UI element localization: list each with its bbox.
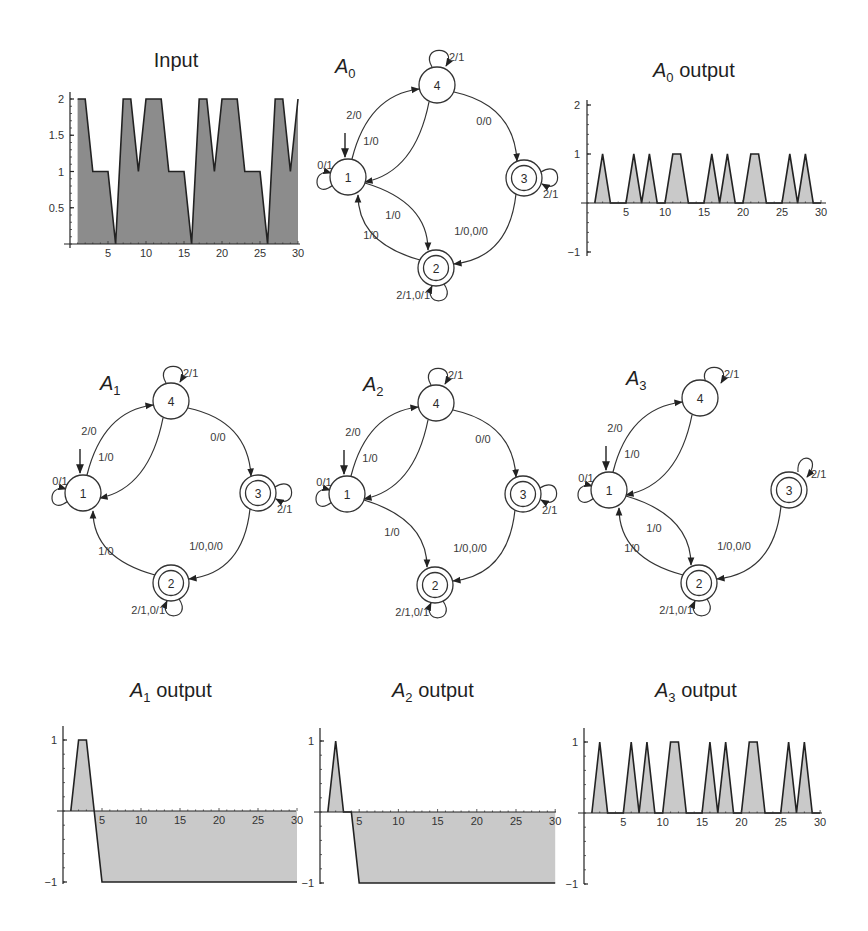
- x-tick-label: 20: [737, 206, 749, 218]
- state-label: 3: [255, 487, 262, 501]
- edge-label-1-to-2: 1/0: [646, 522, 661, 534]
- edge-label-4-to-1: 1/0: [624, 448, 639, 460]
- y-tick-label: 1: [51, 734, 57, 746]
- state-label: 1: [80, 487, 87, 501]
- state-node-4: 4: [419, 67, 455, 103]
- state-node-4: 4: [153, 383, 189, 419]
- y-tick-label: −1: [565, 878, 578, 890]
- x-tick-label: 10: [392, 815, 404, 827]
- x-tick-label: 30: [815, 206, 827, 218]
- edge-label-2-to-1: 1/0: [98, 545, 113, 557]
- x-tick-label: 30: [814, 816, 826, 828]
- x-tick-label: 25: [510, 815, 522, 827]
- a1-output-title: A1 output: [129, 679, 212, 705]
- state-label: 1: [344, 488, 351, 502]
- x-tick-label: 25: [252, 814, 264, 826]
- a3-output-title: A3 output: [654, 679, 737, 705]
- edge-label-1-self-loop: 0/1: [52, 475, 67, 487]
- a3-diagram-title: A3: [625, 367, 647, 393]
- state-label: 4: [168, 395, 175, 409]
- state-label: 1: [606, 484, 613, 498]
- figure-canvas: Input A0 output A1 output A2 output A3 o…: [0, 0, 868, 931]
- state-label: 2: [696, 577, 703, 591]
- edge-label-2-to-1: 1/0: [624, 542, 639, 554]
- edge-label-1-to-4: 2/0: [346, 109, 361, 121]
- edge-label-3-to-2: 1/0,0/0: [189, 540, 223, 552]
- y-tick-label: −1: [567, 246, 580, 258]
- state-node-4: 4: [418, 385, 454, 421]
- x-tick-label: 20: [213, 814, 225, 826]
- edge-label-4-self-loop: 2/1: [183, 367, 198, 379]
- x-tick-label: 5: [99, 814, 105, 826]
- svg-text:A1: A1: [99, 372, 121, 398]
- state-label: 3: [521, 172, 528, 186]
- edge-label-1-self-loop: 0/1: [317, 159, 332, 171]
- edge-2-self-loop: [429, 601, 446, 618]
- x-tick-label: 20: [735, 816, 747, 828]
- a3-state-diagram: 2/01/02/12/11/0,0/01/01/00/12/1,0/11234: [578, 367, 826, 616]
- edge-label-4-to-1: 1/0: [362, 452, 377, 464]
- x-tick-label: 25: [776, 206, 788, 218]
- edge-label-4-self-loop: 2/1: [449, 51, 464, 63]
- edge-1-to-4: [352, 89, 419, 159]
- x-tick-label: 5: [356, 815, 362, 827]
- svg-text:A0 output: A0 output: [652, 59, 735, 85]
- x-tick-label: 10: [657, 816, 669, 828]
- state-node-3: 3: [506, 160, 542, 196]
- state-node-2: 2: [418, 250, 454, 286]
- a0-output-title: A0 output: [652, 59, 735, 85]
- svg-text:A1 output: A1 output: [129, 679, 212, 705]
- x-tick-label: 15: [696, 816, 708, 828]
- edge-4-self-loop: [429, 50, 448, 67]
- y-tick-label: 0.5: [49, 202, 64, 214]
- edge-4-self-loop: [428, 368, 447, 385]
- svg-text:A0: A0: [334, 55, 356, 81]
- state-label: 4: [434, 79, 441, 93]
- edge-label-4-self-loop: 2/1: [448, 369, 463, 381]
- a2-state-diagram: 2/01/02/10/02/11/0,0/01/00/12/1,0/11234: [316, 368, 557, 618]
- svg-text:A2 output: A2 output: [391, 679, 474, 705]
- edge-label-1-self-loop: 0/1: [316, 476, 331, 488]
- x-tick-label: 15: [174, 814, 186, 826]
- input-chart: 510152025300.511.52: [49, 92, 304, 259]
- edge-3-self-loop: [540, 485, 557, 503]
- edge-4-self-loop: [163, 366, 182, 383]
- edge-label-4-to-3: 0/0: [210, 431, 225, 443]
- state-node-1: 1: [591, 472, 627, 508]
- state-node-2: 2: [417, 567, 453, 603]
- edge-label-4-to-1: 1/0: [363, 135, 378, 147]
- a1-state-diagram: 2/01/02/10/02/11/0,0/01/00/12/1,0/11234: [52, 366, 292, 616]
- state-node-3: 3: [240, 475, 276, 511]
- edge-label-2-self-loop: 2/1,0/1: [659, 604, 693, 616]
- edge-2-self-loop: [693, 599, 710, 616]
- y-tick-label: −1: [44, 876, 57, 888]
- edge-label-3-to-2: 1/0,0/0: [453, 542, 487, 554]
- x-tick-label: 15: [178, 247, 190, 259]
- x-tick-label: 10: [659, 206, 671, 218]
- x-tick-label: 25: [775, 816, 787, 828]
- state-node-4: 4: [682, 380, 718, 416]
- edge-label-4-to-3: 0/0: [475, 433, 490, 445]
- y-tick-label: 1: [308, 735, 314, 747]
- edge-1-to-4: [87, 405, 153, 475]
- edge-label-3-self-loop: 2/1: [542, 504, 557, 516]
- x-tick-label: 20: [216, 247, 228, 259]
- state-label: 4: [697, 392, 704, 406]
- svg-text:Input: Input: [154, 49, 199, 71]
- state-label: 4: [433, 397, 440, 411]
- a0-state-diagram: 2/01/02/10/02/11/0,0/01/01/00/12/1,0/112…: [317, 50, 558, 301]
- edge-label-1-to-4: 2/0: [607, 422, 622, 434]
- state-node-3: 3: [505, 476, 541, 512]
- state-label: 2: [432, 579, 439, 593]
- x-tick-label: 10: [140, 247, 152, 259]
- state-node-2: 2: [681, 565, 717, 601]
- y-tick-label: 2: [574, 99, 580, 111]
- a3-output-chart: 51015202530−11: [565, 728, 826, 890]
- edge-2-to-1: [93, 511, 155, 575]
- input-chart-title: Input: [154, 49, 199, 71]
- svg-text:A3: A3: [625, 367, 647, 393]
- edge-label-3-to-2: 1/0,0/0: [717, 540, 751, 552]
- x-tick-label: 5: [105, 247, 111, 259]
- edge-label-1-self-loop: 0/1: [578, 472, 593, 484]
- edge-1-to-4: [613, 402, 682, 472]
